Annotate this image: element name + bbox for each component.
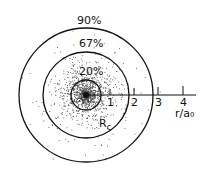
axis-label: r/a₀ [175,108,194,119]
label-67: 67% [79,38,103,49]
rc-label: Rc [99,118,111,132]
label-90: 90% [77,15,101,26]
tick-1: 1 [107,97,114,108]
density-diagram [0,0,206,178]
tick-2: 2 [131,97,138,108]
label-20: 20% [79,66,103,77]
tick-3: 3 [155,97,162,108]
axis-ticks [110,86,183,95]
